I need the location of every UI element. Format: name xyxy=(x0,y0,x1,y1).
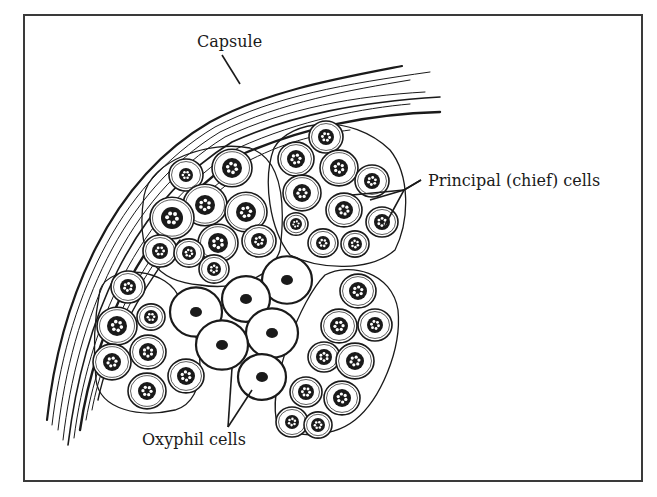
oxyphil-cells-label: Oxyphil cells xyxy=(142,432,246,448)
principal-cell xyxy=(320,150,358,186)
principal-cell xyxy=(309,121,343,153)
principal-cell xyxy=(168,359,204,393)
principal-cell xyxy=(283,175,321,211)
principal-cells-label: Principal (chief) cells xyxy=(428,173,600,189)
principal-cell xyxy=(290,377,322,407)
principal-cell xyxy=(130,335,166,369)
principal-cell xyxy=(199,255,229,283)
capsule-label: Capsule xyxy=(197,34,262,50)
principal-cell xyxy=(308,342,340,372)
principal-cell xyxy=(324,381,360,415)
principal-cell xyxy=(326,193,362,227)
principal-cell xyxy=(111,271,145,303)
principal-cell xyxy=(308,229,338,257)
principal-cell xyxy=(336,343,374,379)
principal-cell xyxy=(128,373,166,409)
principal-cell xyxy=(304,412,332,438)
principal-cell xyxy=(137,304,165,330)
principal-cell xyxy=(358,309,392,341)
principal-cell xyxy=(341,231,369,257)
principal-cell xyxy=(242,225,276,257)
principal-cell xyxy=(276,407,308,437)
oxyphil-cell xyxy=(196,320,248,369)
principal-cell xyxy=(150,197,194,238)
principal-cell xyxy=(278,142,314,176)
parathyroid-histology-illustration xyxy=(0,0,657,497)
principal-cell xyxy=(93,344,131,380)
oxyphil-cell xyxy=(238,354,286,400)
principal-cell xyxy=(174,239,204,267)
principal-cell xyxy=(340,274,376,308)
oxyphil-cell xyxy=(246,308,298,357)
principal-cell xyxy=(321,309,357,343)
principal-cell xyxy=(212,149,252,187)
principal-cell xyxy=(97,307,137,345)
principal-cell xyxy=(284,213,308,236)
principal-cell xyxy=(143,235,177,267)
